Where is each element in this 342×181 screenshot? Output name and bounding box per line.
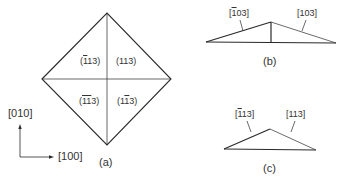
diagram-lines: [0, 0, 342, 181]
plane-label-top-left: (113): [80, 57, 100, 66]
plane-label-bottom-right: (113): [117, 97, 137, 106]
direction-label-c-left: [113]: [235, 110, 254, 119]
axis-label-010: [010]: [8, 108, 32, 119]
plane-label-bottom-left: (113): [79, 97, 99, 106]
crystal-facet-diagram: (113) (113) (113) (113) [010] [100] (a) …: [0, 0, 342, 181]
panel-c-facet: [224, 121, 316, 150]
panel-a-diamond: [42, 13, 171, 145]
caption-b: (b): [263, 56, 276, 67]
caption-a: (a): [99, 157, 112, 168]
plane-label-top-right: (113): [116, 57, 136, 66]
axis-label-100: [100]: [58, 151, 82, 162]
direction-label-b-right: [103]: [297, 9, 317, 18]
caption-c: (c): [263, 163, 276, 174]
direction-label-c-right: [113]: [286, 110, 305, 119]
axis-arrows: [18, 124, 54, 159]
direction-label-b-left: [103]: [229, 9, 249, 18]
panel-b-facet: [206, 20, 336, 43]
